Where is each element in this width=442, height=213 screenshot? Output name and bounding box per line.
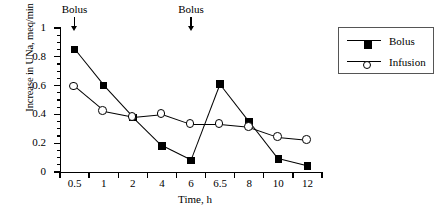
y-minor-tick (57, 107, 61, 108)
data-point-bolus (275, 155, 283, 163)
y-minor-tick (57, 42, 61, 43)
y-tick (54, 114, 61, 115)
y-tick (54, 27, 61, 28)
y-minor-tick (57, 135, 61, 136)
data-point-infusion (186, 119, 195, 128)
data-point-infusion (244, 122, 253, 131)
y-tick-label: 0.8 (0, 51, 46, 62)
y-minor-tick (57, 157, 61, 158)
y-tick-label: 0 (0, 166, 46, 177)
series-bolus-segment (74, 49, 104, 86)
legend-label: Bolus (389, 34, 415, 48)
data-point-bolus (304, 162, 312, 170)
y-minor-tick (57, 92, 61, 93)
series-bolus-segment (220, 84, 250, 122)
x-axis-line (60, 172, 322, 173)
data-point-infusion (98, 106, 107, 115)
y-minor-tick (57, 128, 61, 129)
y-minor-tick (57, 164, 61, 165)
data-point-bolus (71, 46, 79, 54)
data-point-infusion (302, 135, 311, 144)
y-tick (54, 56, 61, 57)
x-tick-label: 12 (287, 178, 327, 189)
y-minor-tick (57, 71, 61, 72)
open-circle-icon (363, 61, 372, 70)
y-minor-tick (57, 99, 61, 100)
data-point-bolus (158, 142, 166, 150)
y-minor-tick (57, 78, 61, 79)
annotation-label: Bolus (178, 3, 204, 15)
y-minor-tick (57, 121, 61, 122)
chart-figure: Increase in UNa, meq/min Time, h 00.20.4… (0, 0, 442, 213)
data-point-infusion (157, 109, 166, 118)
data-point-infusion (215, 119, 224, 128)
y-tick-label: 0.2 (0, 137, 46, 148)
x-axis-title: Time, h (150, 193, 240, 205)
annotation-arrow-head (71, 26, 77, 31)
y-tick-label: 0.6 (0, 80, 46, 91)
annotation-label: Bolus (62, 3, 88, 15)
data-point-bolus (216, 80, 224, 88)
y-tick-label: 0.4 (0, 108, 46, 119)
y-minor-tick (57, 63, 61, 64)
y-minor-tick (57, 150, 61, 151)
data-point-infusion (273, 132, 282, 141)
y-tick (54, 85, 61, 86)
legend-label: Infusion (389, 55, 426, 69)
y-minor-tick (57, 35, 61, 36)
annotation-arrow-head (188, 26, 194, 31)
filled-square-icon (364, 41, 372, 49)
data-point-infusion (128, 112, 137, 121)
legend-entry-infusion: Infusion (339, 52, 435, 72)
y-tick-label: 1 (0, 22, 46, 33)
data-point-bolus (187, 157, 195, 165)
legend-box: Bolus Infusion (338, 27, 434, 74)
y-tick (54, 143, 61, 144)
legend-entry-bolus: Bolus (339, 31, 435, 51)
y-minor-tick (57, 49, 61, 50)
data-point-bolus (100, 82, 108, 90)
